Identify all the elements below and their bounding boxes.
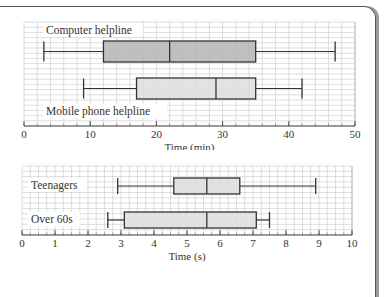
iqr-box [124,212,256,228]
tick-label: 6 [217,237,223,249]
tick-label: 9 [316,237,322,249]
tick-label: 0 [19,237,25,249]
boxplot-over-60s: Over 60s [28,212,270,228]
series-label: Teenagers [31,179,78,192]
x-axis-title: Time (s) [168,250,206,263]
tick-label: 1 [52,237,58,249]
tick-label: 10 [347,237,359,249]
boxplot-teenagers: Teenagers [28,178,316,194]
tick-label: 3 [118,237,124,249]
series-label: Over 60s [31,213,73,225]
tick-label: 5 [184,237,190,249]
tick-label: 2 [85,237,91,249]
tick-label: 7 [250,237,256,249]
tick-label: 4 [151,237,157,249]
tick-label: 8 [283,237,289,249]
